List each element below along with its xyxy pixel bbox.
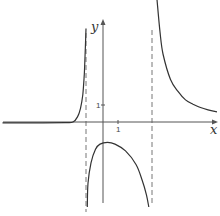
x-axis bbox=[3, 120, 218, 125]
curves bbox=[3, 0, 218, 207]
middle-branch-curve bbox=[87, 142, 149, 207]
left-branch-curve bbox=[3, 29, 87, 123]
function-graph: y x 1 1 bbox=[0, 0, 220, 216]
y-tick-label-1: 1 bbox=[96, 101, 101, 110]
y-axis-label: y bbox=[90, 19, 99, 34]
y-axis-arrow-icon bbox=[101, 19, 106, 25]
x-tick-label-1: 1 bbox=[116, 125, 121, 134]
y-axis bbox=[101, 19, 106, 203]
x-axis-label: x bbox=[210, 122, 218, 137]
right-branch-curve bbox=[157, 0, 217, 112]
